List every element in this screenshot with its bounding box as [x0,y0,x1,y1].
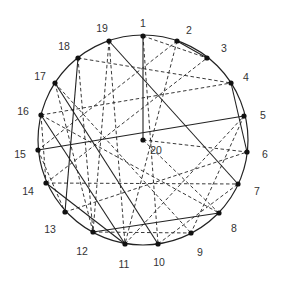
graph-canvas: 1234567891011121314151617181920 [0,0,283,281]
node-12 [90,229,95,234]
dashed-edge-16-8 [41,115,219,213]
solid-edge-18-13 [65,58,78,212]
node-6 [244,149,249,154]
node-label-13: 13 [44,223,56,235]
node-16 [38,112,43,117]
node-label-7: 7 [254,185,260,197]
dashed-edge-14-7 [46,183,238,184]
node-19 [106,38,111,43]
node-label-18: 18 [58,40,70,52]
node-17 [52,80,57,85]
solid-edge-14-11 [46,183,125,244]
solid-edge-2-3 [177,41,207,58]
node-label-16: 16 [17,105,29,117]
node-1 [140,33,145,38]
node-label-10: 10 [153,256,165,268]
node-label-8: 8 [231,222,237,234]
node-label-3: 3 [221,42,227,54]
node-8 [216,210,221,215]
node-3 [204,55,209,60]
node-label-14: 14 [22,185,34,197]
node-label-15: 15 [14,148,26,160]
circle-graph-diagram: 1234567891011121314151617181920 [0,0,283,281]
dashed-edge-15-13 [38,150,65,212]
node-20 [140,137,145,142]
dashed-edge-10-7 [158,184,238,244]
dashed-edge-19-12 [93,41,109,232]
node-9 [188,230,193,235]
dashed-edge-12-9 [93,232,191,233]
node-label-11: 11 [119,258,130,270]
node-label-9: 9 [197,246,203,258]
dashed-edge-17-9 [55,83,191,233]
node-label-5: 5 [260,109,266,121]
node-label-4: 4 [243,71,249,83]
dashed-edge-13-6 [65,152,247,212]
dashed-edge-2-11 [125,41,177,244]
node-label-20: 20 [150,144,162,156]
node-label-17: 17 [34,70,46,82]
node-label-6: 6 [262,148,268,160]
node-13 [62,209,67,214]
node-11 [122,241,127,246]
node-15 [35,147,40,152]
node-18 [75,55,80,60]
solid-edge-19-7 [109,41,238,184]
node-2 [174,38,179,43]
node-4 [228,80,233,85]
node-label-1: 1 [140,17,146,29]
node-label-2: 2 [186,24,192,36]
node-10 [155,241,160,246]
node-7 [235,181,240,186]
dashed-edge-14-3 [46,58,207,183]
dashed-edge-5-9 [191,116,244,233]
node-labels: 1234567891011121314151617181920 [14,17,268,270]
dashed-edge-19-11 [109,41,125,244]
node-label-12: 12 [76,245,88,257]
dashed-edge-16-4 [41,83,231,115]
node-14 [43,180,48,185]
dashed-edge-18-4 [78,58,231,83]
node-label-19: 19 [96,22,108,34]
node-5 [241,113,246,118]
solid-edge-15-5 [38,116,244,150]
dashed-edge-18-12 [78,58,93,232]
